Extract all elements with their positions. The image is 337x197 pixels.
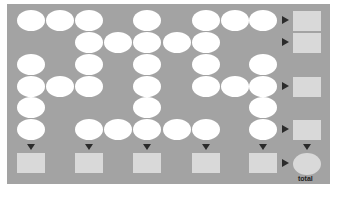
oval-cell xyxy=(133,10,161,31)
total-label: total xyxy=(298,175,313,182)
arrow-right-icon xyxy=(282,16,289,24)
oval-cell xyxy=(163,119,191,140)
oval-cell xyxy=(192,54,220,75)
oval-cell xyxy=(133,76,161,97)
column-answer-box xyxy=(133,153,161,173)
row-answer-box xyxy=(293,11,321,31)
oval-cell xyxy=(249,54,277,75)
arrow-right-icon xyxy=(282,38,289,46)
oval-cell xyxy=(17,119,45,140)
arrow-down-icon xyxy=(303,144,311,150)
oval-cell xyxy=(17,54,45,75)
oval-cell xyxy=(17,10,45,31)
oval-cell xyxy=(46,76,74,97)
column-answer-box xyxy=(17,153,45,173)
oval-cell xyxy=(104,32,132,53)
oval-cell xyxy=(104,119,132,140)
oval-cell xyxy=(249,76,277,97)
oval-cell xyxy=(75,119,103,140)
oval-cell xyxy=(133,32,161,53)
oval-cell xyxy=(133,97,161,118)
oval-cell xyxy=(75,54,103,75)
arrow-right-icon xyxy=(282,125,289,133)
arrow-right-icon xyxy=(282,82,289,90)
oval-cell xyxy=(221,76,249,97)
oval-cell xyxy=(133,119,161,140)
arrow-down-icon xyxy=(202,144,210,150)
oval-cell xyxy=(249,119,277,140)
arrow-down-icon xyxy=(143,144,151,150)
oval-cell xyxy=(75,10,103,31)
arrow-down-icon xyxy=(27,144,35,150)
oval-cell xyxy=(17,76,45,97)
oval-cell xyxy=(221,10,249,31)
oval-cell xyxy=(192,76,220,97)
column-answer-box xyxy=(192,153,220,173)
total-circle xyxy=(293,153,321,175)
row-answer-box xyxy=(293,120,321,140)
oval-cell xyxy=(133,54,161,75)
oval-cell xyxy=(192,10,220,31)
arrow-right-icon xyxy=(282,159,289,167)
arrow-down-icon xyxy=(85,144,93,150)
oval-cell xyxy=(192,119,220,140)
row-answer-box xyxy=(293,77,321,97)
oval-cell xyxy=(163,32,191,53)
oval-cell xyxy=(192,32,220,53)
row-answer-box xyxy=(293,33,321,53)
column-answer-box xyxy=(75,153,103,173)
oval-cell xyxy=(249,10,277,31)
arrow-down-icon xyxy=(259,144,267,150)
oval-cell xyxy=(46,10,74,31)
oval-cell xyxy=(75,32,103,53)
column-answer-box xyxy=(249,153,277,173)
oval-cell xyxy=(75,76,103,97)
oval-cell xyxy=(17,97,45,118)
oval-cell xyxy=(249,97,277,118)
